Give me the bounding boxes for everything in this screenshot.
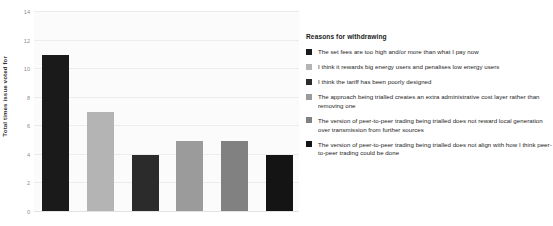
bars-layer <box>34 12 299 212</box>
legend-item[interactable]: The version of peer-to-peer trading bein… <box>306 141 553 158</box>
bar[interactable] <box>176 141 203 212</box>
legend-item[interactable]: I think the tariff has been poorly desig… <box>306 78 553 87</box>
legend-item-label: I think it rewards big energy users and … <box>318 63 499 72</box>
legend-items: The set fees are too high and/or more th… <box>306 48 553 158</box>
legend-color-swatch <box>306 117 312 123</box>
legend-color-swatch <box>306 79 312 85</box>
legend-item-label: The version of peer-to-peer trading bein… <box>318 117 553 134</box>
bar[interactable] <box>266 155 293 212</box>
y-axis-tick-label: 6 <box>27 123 30 129</box>
legend-item[interactable]: The version of peer-to-peer trading bein… <box>306 117 553 134</box>
y-axis-tick-label: 14 <box>24 9 30 15</box>
y-axis-tick-label: 2 <box>27 180 30 186</box>
x-axis-baseline <box>34 211 299 212</box>
bar[interactable] <box>42 55 69 212</box>
plot-area <box>34 12 299 212</box>
y-axis-tick-label: 4 <box>27 152 30 158</box>
legend-item[interactable]: The set fees are too high and/or more th… <box>306 48 553 57</box>
y-axis-tick-labels: 02468101214 <box>0 0 34 226</box>
legend-color-swatch <box>306 141 312 147</box>
legend-item[interactable]: The approach being trialled creates an e… <box>306 93 553 110</box>
y-axis-tick-label: 8 <box>27 95 30 101</box>
bar[interactable] <box>132 155 159 212</box>
legend-item-label: The approach being trialled creates an e… <box>318 93 553 110</box>
y-axis-tick-label: 0 <box>27 209 30 215</box>
legend-color-swatch <box>306 49 312 55</box>
legend: Reasons for withdrawing The set fees are… <box>306 33 553 164</box>
legend-item[interactable]: I think it rewards big energy users and … <box>306 63 553 72</box>
bar[interactable] <box>221 141 248 212</box>
bar-chart-figure: Total times issue voted for 02468101214 … <box>0 0 553 226</box>
y-axis-tick-label: 12 <box>24 38 30 44</box>
legend-title: Reasons for withdrawing <box>306 33 553 40</box>
y-axis-tick-label: 10 <box>24 66 30 72</box>
legend-item-label: The version of peer-to-peer trading bein… <box>318 141 553 158</box>
legend-color-swatch <box>306 64 312 70</box>
bar[interactable] <box>87 112 114 212</box>
legend-item-label: I think the tariff has been poorly desig… <box>318 78 432 87</box>
legend-color-swatch <box>306 94 312 100</box>
legend-item-label: The set fees are too high and/or more th… <box>318 48 479 57</box>
